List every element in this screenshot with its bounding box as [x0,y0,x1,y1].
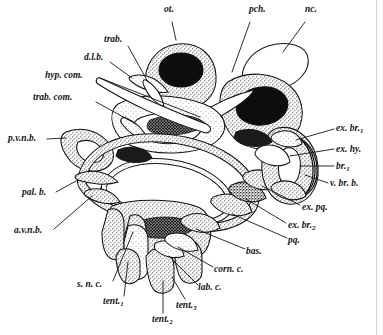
label-subscript-exbr1: 1 [360,127,363,134]
label-subscript-br1: 1 [346,165,349,172]
leader-line-palb [56,180,78,192]
anatomical-figure: ot.pch.nc.trab.d.l.b.hyp. com.trab. com.… [0,0,383,335]
label-expq: ex. pq. [302,202,328,212]
label-subscript-tent2: 2 [168,318,173,325]
label-exbr1: ex. br.1 [336,123,363,134]
cartilage-body [61,44,318,294]
label-exbr2: ex. br.2 [288,220,316,231]
label-hyp_com: hyp. com. [45,70,83,80]
tentacle-1 [116,249,140,284]
leader-line-avnb [54,196,92,229]
label-palb: pal. b. [21,187,46,197]
label-vbrb: v. br. b. [330,178,358,188]
label-subscript-tent1: 1 [120,300,123,307]
label-subscript-exbr2: 2 [311,224,316,231]
anterior-ventral-nerve-bar [84,189,120,204]
label-br1: br.1 [336,161,350,172]
label-trab: trab. [104,34,122,44]
label-pq: pq. [287,235,300,245]
label-lab_c: lab. c. [198,282,221,292]
leader-line-pq [232,214,287,238]
label-tent2: tent.2 [152,314,173,325]
chondrocranium-drawing: ot.pch.nc.trab.d.l.b.hyp. com.trab. com.… [0,0,383,335]
label-pch: pch. [248,4,266,14]
label-trab_com: trab. com. [33,92,72,102]
label-tent1: tent.1 [103,296,124,307]
label-pvnb: p.v.n.b. [7,133,36,143]
label-subscript-tent3: 3 [192,304,197,311]
label-bas: bas. [246,246,262,256]
page-edge-rule [376,0,377,335]
otic-foramen [159,53,203,87]
label-tent3: tent.3 [176,300,197,311]
label-nc: nc. [305,4,317,14]
leader-line-dlb [110,62,132,78]
leader-line-ot [172,22,176,40]
label-corn_c: corn. c. [214,264,243,274]
label-ot: ot. [164,4,174,14]
label-avnb: a.v.n.b. [14,225,42,235]
label-dlb: d.l.b. [84,52,103,62]
label-snc: s. n. c. [76,279,102,289]
label-exhy: ex. hy. [336,144,361,154]
